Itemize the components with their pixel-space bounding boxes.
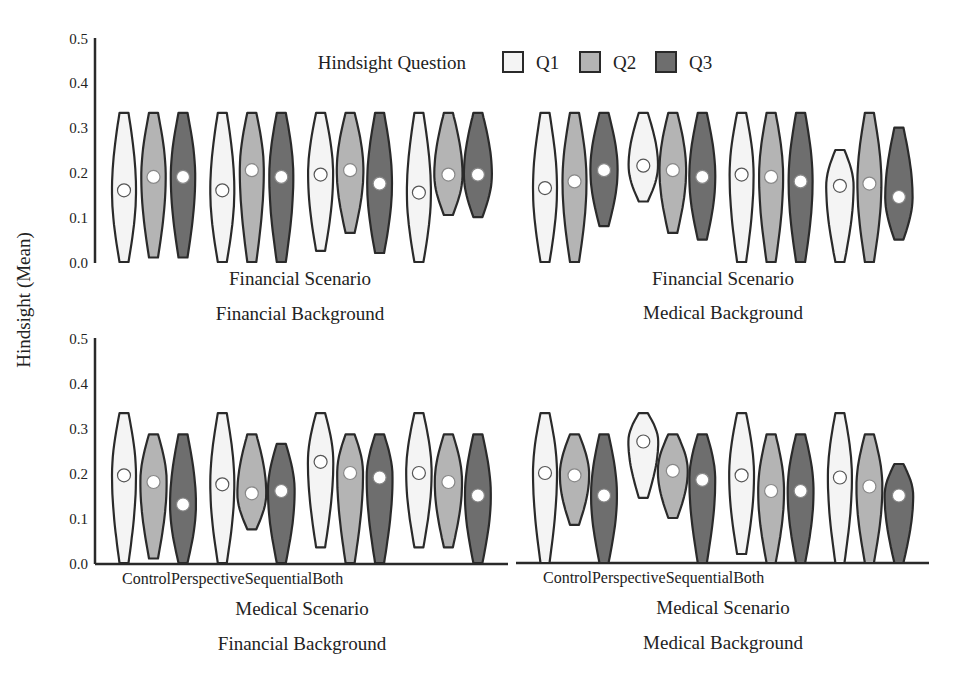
svg-text:0.3: 0.3 bbox=[69, 421, 88, 437]
violin-perspective-q3 bbox=[268, 444, 295, 563]
mean-marker bbox=[765, 485, 778, 498]
violin-both-q3 bbox=[885, 128, 912, 240]
panel-title-scenario: Medical Scenario bbox=[235, 598, 368, 619]
svg-text:0.4: 0.4 bbox=[69, 75, 88, 91]
mean-marker bbox=[412, 467, 425, 480]
mean-marker bbox=[666, 464, 679, 477]
y-axis-bottom: 0.0 0.1 0.2 0.3 0.4 0.5 bbox=[69, 331, 95, 572]
violin-sequential-q2 bbox=[337, 434, 363, 563]
mean-marker bbox=[833, 471, 846, 484]
mean-marker bbox=[833, 179, 846, 192]
mean-marker bbox=[344, 164, 357, 177]
svg-text:0.5: 0.5 bbox=[69, 331, 88, 347]
panel-title-background: Financial Background bbox=[218, 633, 387, 654]
mean-marker bbox=[471, 489, 484, 502]
mean-marker bbox=[216, 478, 229, 491]
violin-perspective-q3 bbox=[689, 434, 715, 563]
mean-marker bbox=[568, 175, 581, 188]
mean-marker bbox=[412, 186, 425, 199]
mean-marker bbox=[892, 191, 905, 204]
svg-text:0.2: 0.2 bbox=[69, 165, 88, 181]
violin-both-q3 bbox=[885, 464, 914, 563]
mean-marker bbox=[863, 480, 876, 493]
x-tick-labels: ControlPerspectiveSequentialBoth bbox=[122, 570, 343, 588]
mean-marker bbox=[637, 435, 650, 448]
mean-marker bbox=[314, 455, 327, 468]
mean-marker bbox=[696, 473, 709, 486]
mean-marker bbox=[598, 489, 611, 502]
panel-financial-scenario-financial-background: 0.0 0.1 0.2 0.3 0.4 0.5 Financial Scenar… bbox=[69, 31, 492, 324]
mean-marker bbox=[314, 168, 327, 181]
violin-control-q2 bbox=[141, 113, 165, 258]
mean-marker bbox=[892, 489, 905, 502]
violin-both-q2 bbox=[435, 434, 462, 547]
mean-marker bbox=[696, 170, 709, 183]
violin-perspective-q1 bbox=[629, 113, 658, 202]
mean-marker bbox=[177, 498, 190, 511]
violin-sequential-q3 bbox=[367, 434, 393, 563]
svg-text:0.1: 0.1 bbox=[69, 210, 88, 226]
panel-title-scenario: Medical Scenario bbox=[656, 597, 789, 618]
mean-marker bbox=[147, 170, 160, 183]
svg-text:0.0: 0.0 bbox=[69, 556, 88, 572]
violin-control-q2 bbox=[140, 434, 166, 558]
violin-both-q3 bbox=[464, 113, 492, 217]
legend-label-q3: Q3 bbox=[689, 52, 712, 73]
mean-marker bbox=[245, 164, 258, 177]
mean-marker bbox=[118, 184, 131, 197]
violin-both-q2 bbox=[434, 113, 462, 215]
svg-text:0.2: 0.2 bbox=[69, 466, 88, 482]
mean-marker bbox=[245, 487, 258, 500]
mean-marker bbox=[735, 469, 748, 482]
legend: Hindsight Question Q1 Q2 Q3 bbox=[318, 52, 713, 73]
violin-chart: Hindsight (Mean) Hindsight Question Q1 Q… bbox=[0, 0, 961, 687]
legend-swatch-q3 bbox=[656, 52, 676, 72]
violin-sequential-q1 bbox=[730, 113, 754, 262]
panel-title-background: Medical Background bbox=[643, 302, 803, 323]
violin-group bbox=[533, 113, 913, 262]
mean-marker bbox=[177, 170, 190, 183]
legend-label-q2: Q2 bbox=[613, 52, 636, 73]
mean-marker bbox=[735, 168, 748, 181]
panel-medical-scenario-financial-background: 0.0 0.1 0.2 0.3 0.4 0.5 ControlPerspecti… bbox=[69, 331, 508, 654]
mean-marker bbox=[539, 467, 552, 480]
mean-marker bbox=[118, 469, 131, 482]
mean-marker bbox=[216, 184, 229, 197]
violin-perspective-q2 bbox=[237, 434, 266, 529]
mean-marker bbox=[568, 469, 581, 482]
svg-text:0.1: 0.1 bbox=[69, 511, 88, 527]
violin-group bbox=[112, 113, 492, 262]
mean-marker bbox=[794, 175, 807, 188]
panel-title-scenario: Financial Scenario bbox=[229, 268, 371, 289]
violin-both-q1 bbox=[826, 150, 853, 262]
violin-control-q1 bbox=[112, 413, 136, 563]
mean-marker bbox=[666, 164, 679, 177]
violin-perspective-q3 bbox=[269, 113, 293, 262]
mean-marker bbox=[637, 159, 650, 172]
mean-marker bbox=[794, 485, 807, 498]
mean-marker bbox=[275, 485, 288, 498]
panel-title-background: Financial Background bbox=[216, 303, 385, 324]
legend-title: Hindsight Question bbox=[318, 52, 467, 73]
panel-financial-scenario-medical-background: Financial Scenario Medical Background bbox=[533, 113, 913, 323]
violin-sequential-q1 bbox=[308, 413, 333, 547]
violin-sequential-q2 bbox=[758, 434, 784, 563]
x-tick-labels: ControlPerspectiveSequentialBoth bbox=[543, 569, 764, 587]
violin-control-q1 bbox=[533, 413, 557, 563]
mean-marker bbox=[598, 164, 611, 177]
violin-sequential-q1 bbox=[729, 413, 754, 554]
mean-marker bbox=[471, 168, 484, 181]
legend-label-q1: Q1 bbox=[536, 52, 559, 73]
panel-medical-scenario-medical-background: ControlPerspectiveSequentialBoth Medical… bbox=[516, 413, 929, 653]
panel-title-scenario: Financial Scenario bbox=[652, 268, 794, 289]
mean-marker bbox=[539, 182, 552, 195]
panel-title-background: Medical Background bbox=[643, 632, 803, 653]
violin-both-q1 bbox=[828, 413, 852, 563]
violin-perspective-q2 bbox=[240, 113, 264, 262]
mean-marker bbox=[863, 177, 876, 190]
violin-group bbox=[112, 413, 491, 563]
violin-sequential-q1 bbox=[308, 113, 333, 251]
mean-marker bbox=[373, 471, 386, 484]
violin-sequential-q2 bbox=[759, 113, 783, 262]
mean-marker bbox=[373, 177, 386, 190]
